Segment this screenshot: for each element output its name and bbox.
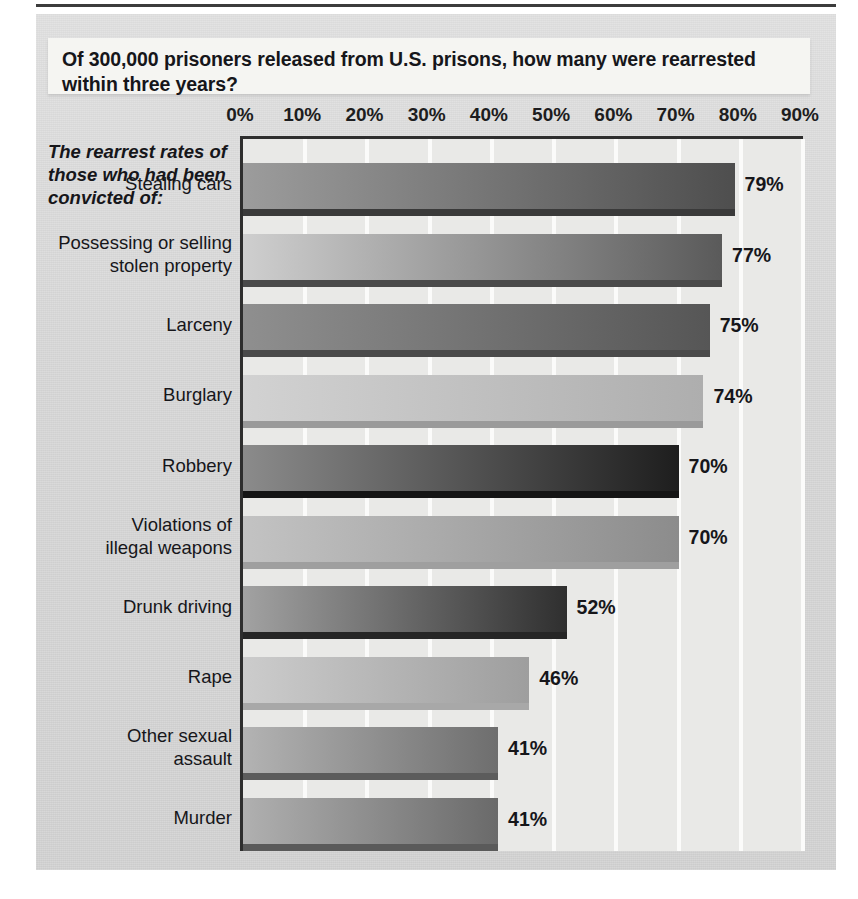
bar-value-label: 74%: [713, 385, 752, 408]
category-label: Burglary: [36, 383, 232, 406]
plot-area: 79%77%75%74%70%70%52%46%41%41%: [240, 136, 803, 851]
bar-value-label: 77%: [732, 244, 771, 267]
category-label: Possessing or sellingstolen property: [36, 231, 232, 277]
category-label-line: Drunk driving: [36, 595, 232, 618]
category-label-line: Larceny: [36, 313, 232, 336]
category-label-line: Robbery: [36, 454, 232, 477]
category-label: Other sexualassault: [36, 724, 232, 770]
bar: [243, 516, 679, 562]
bar-fill: [243, 727, 498, 773]
bar: [243, 163, 735, 209]
x-axis-tick-labels: 0%10%20%30%40%50%60%70%80%90%: [36, 104, 836, 134]
bar: [243, 586, 567, 632]
bar-fill: [243, 163, 735, 209]
category-label: Violations ofillegal weapons: [36, 513, 232, 559]
page-footer-strip: [0, 870, 858, 899]
category-label: Drunk driving: [36, 595, 232, 618]
x-tick-label: 40%: [461, 104, 517, 126]
category-label-line: Rape: [36, 665, 232, 688]
x-tick-label: 0%: [212, 104, 268, 126]
category-label-line: Murder: [36, 806, 232, 829]
bar-fill: [243, 234, 722, 280]
bar-shadow-edge: [243, 421, 703, 428]
gridline: [801, 139, 805, 851]
bar-fill: [243, 586, 567, 632]
top-divider-rule: [36, 4, 836, 7]
category-label: Rape: [36, 665, 232, 688]
x-tick-label: 10%: [274, 104, 330, 126]
bar-fill: [243, 375, 703, 421]
chart-panel: Of 300,000 prisoners released from U.S. …: [36, 14, 836, 870]
bar: [243, 304, 710, 350]
category-label-line: Violations of: [36, 513, 232, 536]
bar-value-label: 41%: [508, 737, 547, 760]
bar: [243, 234, 722, 280]
x-tick-label: 50%: [523, 104, 579, 126]
bar-fill: [243, 798, 498, 844]
bar-shadow-edge: [243, 632, 567, 639]
bar-fill: [243, 657, 529, 703]
bar-fill: [243, 304, 710, 350]
bar-shadow-edge: [243, 562, 679, 569]
bar: [243, 375, 703, 421]
bar: [243, 727, 498, 773]
bar-shadow-edge: [243, 844, 498, 851]
category-label-line: Other sexual: [36, 724, 232, 747]
bar-value-label: 70%: [689, 526, 728, 549]
category-label-column: Stealing carsPossessing or sellingstolen…: [36, 136, 232, 848]
bar-shadow-edge: [243, 491, 679, 498]
category-label: Stealing cars: [36, 172, 232, 195]
page-title: Of 300,000 prisoners released from U.S. …: [62, 47, 796, 97]
x-tick-label: 80%: [710, 104, 766, 126]
category-label-line: Stealing cars: [36, 172, 232, 195]
bar-fill: [243, 445, 679, 491]
bar: [243, 798, 498, 844]
bar-value-label: 75%: [720, 314, 759, 337]
category-label-line: Burglary: [36, 383, 232, 406]
x-tick-label: 30%: [399, 104, 455, 126]
bar-value-label: 52%: [577, 596, 616, 619]
x-tick-label: 90%: [772, 104, 828, 126]
bar-shadow-edge: [243, 350, 710, 357]
bar-fill: [243, 516, 679, 562]
category-label: Murder: [36, 806, 232, 829]
bar-value-label: 70%: [689, 455, 728, 478]
bar-chart: 0%10%20%30%40%50%60%70%80%90% The rearre…: [36, 104, 836, 870]
category-label: Larceny: [36, 313, 232, 336]
chart-title-box: Of 300,000 prisoners released from U.S. …: [48, 38, 810, 94]
category-label: Robbery: [36, 454, 232, 477]
x-tick-label: 20%: [336, 104, 392, 126]
x-tick-label: 70%: [648, 104, 704, 126]
category-label-line: illegal weapons: [36, 536, 232, 559]
bar-shadow-edge: [243, 773, 498, 780]
category-label-line: stolen property: [36, 254, 232, 277]
x-tick-label: 60%: [585, 104, 641, 126]
bar-value-label: 41%: [508, 808, 547, 831]
bar-shadow-edge: [243, 280, 722, 287]
bar-shadow-edge: [243, 209, 735, 216]
bar-value-label: 46%: [539, 667, 578, 690]
bar: [243, 657, 529, 703]
bar: [243, 445, 679, 491]
category-label-line: assault: [36, 747, 232, 770]
bar-shadow-edge: [243, 703, 529, 710]
category-label-line: Possessing or selling: [36, 231, 232, 254]
bar-value-label: 79%: [745, 173, 784, 196]
